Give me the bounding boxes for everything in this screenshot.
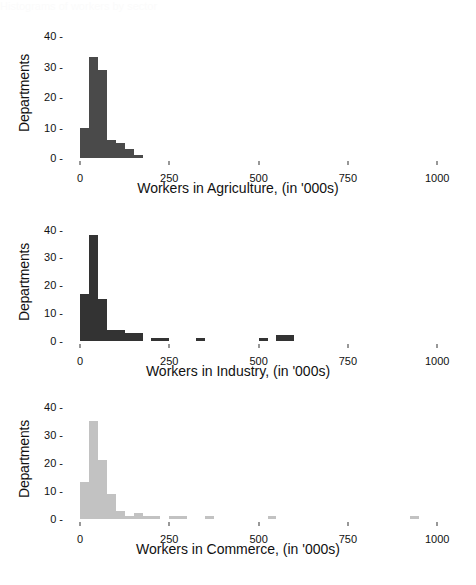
x-tick-mark-industry-0 [80,344,81,348]
bar [196,338,205,341]
x-tick-mark-commerce-750 [347,522,348,526]
bar [134,333,143,341]
x-tick-mark-industry-750 [347,344,348,348]
x-tick-mark-industry-500 [258,344,259,348]
bar [107,494,116,519]
bar [160,338,169,341]
x-tick-mark-industry-250 [169,344,170,348]
bar [98,460,107,519]
bar [98,299,107,341]
bar [285,335,294,341]
bar [89,57,98,158]
bar [125,516,134,519]
x-tick-mark-agriculture-250 [169,161,170,165]
bar [98,70,107,158]
bar [143,516,152,519]
bar [80,128,89,158]
bar [268,516,277,519]
x-axis-label-industry: Workers in Industry, (in '000s) [0,363,476,379]
bar [205,516,214,519]
x-tick-mark-commerce-250 [169,522,170,526]
bars-commerce [0,401,476,519]
bars-industry [0,224,476,341]
bar [410,516,419,519]
bar [116,511,125,519]
chart-panel-commerce: Departments0-10-20-30-40-02505007501000W… [0,396,476,585]
x-tick-mark-commerce-0 [80,522,81,526]
bar [169,516,178,519]
bar [80,482,89,519]
bar [89,421,98,519]
x-tick-mark-agriculture-0 [80,161,81,165]
x-tick-mark-commerce-500 [258,522,259,526]
bar [276,335,285,341]
bar [151,338,160,341]
bar [125,333,134,341]
bar [151,516,160,519]
bar [116,330,125,341]
bar [116,143,125,158]
bars-agriculture [0,30,476,158]
bar [259,338,268,341]
bar [134,513,143,519]
x-tick-mark-commerce-1000 [437,522,438,526]
bar [178,516,187,519]
bar [125,149,134,158]
figure-canvas: Histograms of workers by sector Departme… [0,0,476,585]
bar [107,330,116,341]
x-tick-mark-agriculture-1000 [437,161,438,165]
x-tick-mark-agriculture-500 [258,161,259,165]
bar [89,235,98,341]
bar [134,155,143,158]
chart-panel-agriculture: Departments0-10-20-30-40-02505007501000W… [0,8,476,202]
x-axis-label-agriculture: Workers in Agriculture, (in '000s) [0,180,476,196]
bar [107,140,116,158]
x-tick-mark-industry-1000 [437,344,438,348]
bar [80,294,89,341]
x-tick-mark-agriculture-750 [347,161,348,165]
chart-panel-industry: Departments0-10-20-30-40-02505007501000W… [0,202,476,396]
x-axis-label-commerce: Workers in Commerce, (in '000s) [0,541,476,557]
